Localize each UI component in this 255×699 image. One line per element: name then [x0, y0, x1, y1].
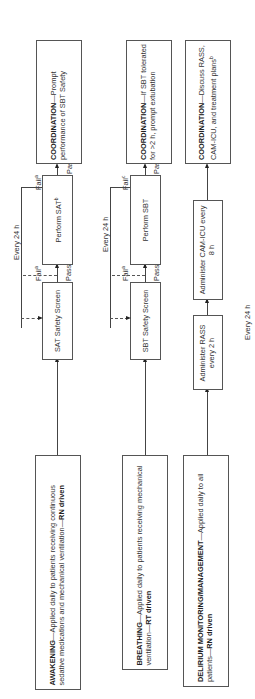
loop-line [21, 187, 42, 188]
administer-rass-label: Administer RASS every 2 h [199, 318, 216, 388]
delirium-text: DELIRIUM MONITORING/MANAGEMENT—Applied d… [197, 460, 214, 682]
breathing-text: BREATHING—Applied daily to patients rece… [136, 460, 153, 665]
delirium-coordination-text: COORDINATION—Discuss RASS, CAM-ICU, and … [198, 44, 219, 160]
cycle-label: Every 24 h [12, 225, 21, 260]
loop-line [21, 187, 22, 328]
awakening-text: AWAKENING—Applied daily to patients rece… [49, 460, 66, 685]
delirium-coordination-box: COORDINATION—Discuss RASS, CAM-ICU, and … [185, 40, 231, 164]
sbt-safety-screen-label: SBT Safety Screen [141, 283, 150, 359]
perform-sbt-label: Perform SBT [141, 177, 150, 263]
perform-sat-label: Perform SATb [51, 177, 63, 263]
sat-safety-screen-label: SAT Safety Screen [53, 283, 62, 359]
administer-cam-icu-box: Administer CAM-ICU every 8 h [193, 200, 223, 300]
pass-label: Pass [64, 265, 73, 281]
awakening-box: AWAKENING—Applied daily to patients rece… [35, 455, 81, 690]
loop-line [110, 187, 130, 188]
cycle-label: Every 24 h [243, 305, 252, 340]
fail-label: Faila [33, 266, 43, 281]
fail-dashed [23, 275, 57, 276]
connector [57, 360, 58, 455]
connector [145, 360, 146, 455]
arrow-icon [126, 316, 131, 320]
connector [207, 390, 208, 455]
sbt-safety-screen-box: SBT Safety Screen [130, 282, 161, 360]
administer-rass-box: Administer RASS every 2 h [193, 315, 223, 390]
perform-sat-box: Perform SATb [42, 175, 73, 265]
breathing-box: BREATHING—Applied daily to patients rece… [122, 455, 168, 670]
awakening-coordination-text: COORDINATION—Prompt performance of SBT S… [50, 44, 67, 160]
arrow-icon [38, 316, 43, 320]
delirium-box: DELIRIUM MONITORING/MANAGEMENT—Applied d… [183, 455, 229, 687]
pass-label: Pass [152, 265, 161, 281]
connector [207, 166, 208, 200]
breathing-coordination-text: COORDINATION—If SBT tolerated for >2 h, … [140, 44, 157, 160]
fail-dashed [112, 275, 145, 276]
awakening-coordination-box: COORDINATION—Prompt performance of SBT S… [36, 40, 82, 164]
cycle-label: Every 24 h [101, 217, 110, 252]
breathing-coordination-box: COORDINATION—If SBT tolerated for >2 h, … [126, 40, 172, 164]
loop-line [110, 187, 111, 328]
perform-sbt-box: Perform SBT [130, 175, 161, 265]
fail-label: Faila [120, 266, 130, 281]
administer-cam-icu-label: Administer CAM-ICU every 8 h [199, 205, 216, 295]
sat-safety-screen-box: SAT Safety Screen [42, 282, 73, 360]
